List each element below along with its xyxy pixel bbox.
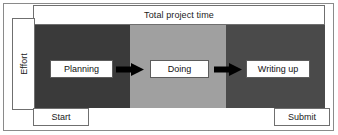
milestone-submit-label: Submit (288, 112, 316, 122)
right-arrow-icon (116, 63, 144, 76)
milestone-start-box: Start (33, 108, 89, 126)
project-timeline-diagram: Total project time Effort Planning Doing… (0, 0, 338, 135)
milestone-submit-box: Submit (274, 108, 330, 126)
effort-axis-box: Effort (12, 18, 35, 110)
milestone-start-label: Start (51, 112, 70, 122)
total-project-time-label: Total project time (144, 10, 214, 20)
phase-box-writing-up: Writing up (246, 60, 310, 78)
phase-label-planning: Planning (64, 64, 99, 74)
right-arrow-icon (214, 63, 242, 76)
phase-box-doing: Doing (150, 60, 209, 78)
phase-box-planning: Planning (50, 60, 113, 78)
phase-label-doing: Doing (168, 64, 192, 74)
phase-label-writing-up: Writing up (258, 64, 298, 74)
total-project-time-banner: Total project time (33, 5, 325, 25)
effort-axis-label: Effort (19, 53, 29, 74)
